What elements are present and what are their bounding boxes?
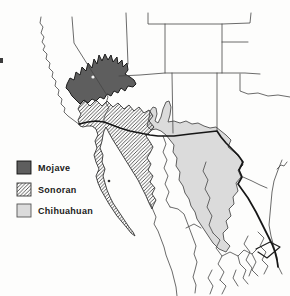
chihuahuan-label: Chihuahuan [38,206,93,216]
legend-item-mojave: Mojave [17,161,70,174]
mojave-label: Mojave [38,163,70,173]
mojave-white-notch [91,75,94,78]
legend-item-sonoran: Sonoran [17,183,77,196]
sonoran-swatch [17,183,31,196]
edge-artifact-mark [0,58,3,63]
gulf-island-dot [108,180,111,183]
legend-item-chihuahuan: Chihuahuan [17,204,93,217]
sonoran-label: Sonoran [38,185,77,195]
chihuahuan-swatch [17,204,31,217]
desert-map-figure: Mojave Sonoran Chihuahuan [0,0,290,296]
mojave-swatch [17,161,31,174]
desert-map: Mojave Sonoran Chihuahuan [0,0,290,296]
